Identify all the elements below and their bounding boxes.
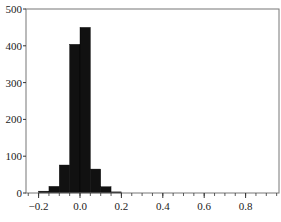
histogram-bar xyxy=(80,27,90,193)
histogram-bar xyxy=(59,165,69,193)
x-tick-label: 0.0 xyxy=(73,200,87,212)
x-tick-label: −0.2 xyxy=(29,200,49,212)
x-tick-label: 0.8 xyxy=(239,200,253,212)
x-tick-label: 0.4 xyxy=(156,200,170,212)
y-tick-label: 200 xyxy=(6,113,23,125)
y-tick-label: 100 xyxy=(6,150,23,162)
histogram-chart: 0100200300400500 −0.20.00.20.40.60.8 xyxy=(0,0,281,222)
y-tick-label: 300 xyxy=(6,77,23,89)
histogram-bar xyxy=(49,186,59,193)
x-tick-label: 0.6 xyxy=(197,200,211,212)
x-axis: −0.20.00.20.40.60.8 xyxy=(28,193,276,212)
histogram-bar xyxy=(70,44,80,193)
histogram-bar xyxy=(90,169,100,193)
x-tick-label: 0.2 xyxy=(115,200,129,212)
histogram-bars xyxy=(39,27,122,193)
histogram-bar xyxy=(101,187,111,193)
y-tick-label: 0 xyxy=(17,187,23,199)
y-axis: 0100200300400500 xyxy=(6,3,27,199)
y-tick-label: 500 xyxy=(6,3,23,15)
y-tick-label: 400 xyxy=(6,40,23,52)
